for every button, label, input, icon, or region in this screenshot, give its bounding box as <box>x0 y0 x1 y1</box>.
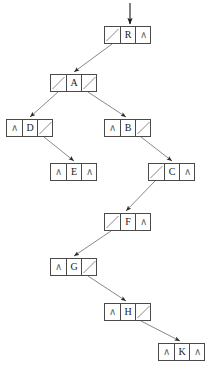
tree-node-g: ∧G <box>50 258 97 276</box>
node-h-data-cell: H <box>120 304 136 320</box>
tree-node-b: ∧B <box>104 119 151 137</box>
node-k-left-pointer-cell: ∧ <box>159 344 174 360</box>
node-a-right-pointer-cell <box>82 75 97 91</box>
node-e-right-pointer-cell: ∧ <box>82 164 97 180</box>
node-r-left-pointer-cell <box>105 27 120 43</box>
figure-canvas: R∧A∧D∧B∧E∧C∧F∧∧G∧H∧K∧ <box>0 0 209 372</box>
edge-a-to-b <box>88 92 126 117</box>
tree-node-k: ∧K∧ <box>158 343 205 361</box>
node-b-left-pointer-cell: ∧ <box>105 120 120 136</box>
node-e-data-cell: E <box>66 164 82 180</box>
node-a-left-pointer-cell <box>51 75 66 91</box>
edge-g-to-h <box>88 276 126 301</box>
null-pointer-glyph: ∧ <box>55 262 62 272</box>
node-a-data-cell: A <box>66 75 82 91</box>
node-b-right-pointer-cell <box>136 120 151 136</box>
node-d-left-pointer-cell: ∧ <box>7 120 22 136</box>
edge-b-to-c <box>141 137 172 161</box>
edge-r-to-a <box>74 44 112 72</box>
node-k-right-pointer-cell: ∧ <box>190 344 205 360</box>
tree-node-c: C∧ <box>148 163 195 181</box>
node-f-data-cell: F <box>120 214 136 230</box>
tree-node-a: A <box>50 74 97 92</box>
node-f-right-pointer-cell: ∧ <box>136 214 151 230</box>
null-pointer-glyph: ∧ <box>11 123 18 133</box>
node-d-right-pointer-cell <box>38 120 53 136</box>
tree-node-h: ∧H <box>104 303 151 321</box>
node-g-right-pointer-cell <box>82 259 97 275</box>
node-f-left-pointer-cell <box>105 214 120 230</box>
null-pointer-glyph: ∧ <box>55 167 62 177</box>
node-e-left-pointer-cell: ∧ <box>51 164 66 180</box>
null-pointer-glyph: ∧ <box>140 217 147 227</box>
node-b-data-cell: B <box>120 120 136 136</box>
null-pointer-glyph: ∧ <box>163 347 170 357</box>
null-pointer-glyph: ∧ <box>109 307 116 317</box>
edge-c-to-f <box>126 181 155 211</box>
node-r-data-cell: R <box>120 27 136 43</box>
tree-node-r: R∧ <box>104 26 151 44</box>
node-r-right-pointer-cell: ∧ <box>136 27 151 43</box>
node-g-left-pointer-cell: ∧ <box>51 259 66 275</box>
null-pointer-glyph: ∧ <box>86 167 93 177</box>
tree-node-f: F∧ <box>104 213 151 231</box>
node-h-right-pointer-cell <box>136 304 151 320</box>
node-g-data-cell: G <box>66 259 82 275</box>
tree-node-d: ∧D <box>6 119 53 137</box>
node-c-data-cell: C <box>164 164 180 180</box>
edge-d-to-e <box>44 137 74 161</box>
node-d-data-cell: D <box>22 120 38 136</box>
node-c-left-pointer-cell <box>149 164 164 180</box>
null-pointer-glyph: ∧ <box>109 123 116 133</box>
tree-node-e: ∧E∧ <box>50 163 97 181</box>
node-h-left-pointer-cell: ∧ <box>105 304 120 320</box>
edge-f-to-g <box>74 231 111 256</box>
edge-a-to-d <box>30 92 58 117</box>
null-pointer-glyph: ∧ <box>194 347 201 357</box>
node-k-data-cell: K <box>174 344 190 360</box>
node-c-right-pointer-cell: ∧ <box>180 164 195 180</box>
null-pointer-glyph: ∧ <box>184 167 191 177</box>
edge-h-to-k <box>141 321 180 341</box>
null-pointer-glyph: ∧ <box>140 30 147 40</box>
